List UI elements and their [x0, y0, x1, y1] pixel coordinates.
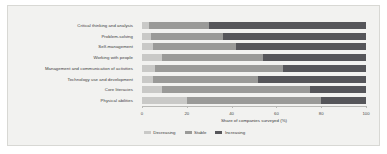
bar-segment-increasing — [258, 76, 366, 83]
bar-segment-decreasing — [142, 54, 162, 61]
category-axis-labels: Critical thinking and analysisProblem-so… — [8, 20, 138, 106]
x-axis-tick-labels: 020406080100 — [8, 108, 381, 116]
bar-segment-stable — [151, 33, 223, 40]
bar-row — [142, 97, 366, 104]
bar-row — [142, 33, 366, 40]
legend-item-decreasing[interactable]: Decreasing — [144, 130, 176, 135]
bar-segment-stable — [162, 86, 310, 93]
x-axis-tick-label: 100 — [362, 111, 369, 116]
bar-segment-decreasing — [142, 86, 162, 93]
bar-segment-increasing — [236, 43, 366, 50]
category-label: Management and communication of activiti… — [45, 65, 133, 72]
bar-segment-decreasing — [142, 33, 151, 40]
category-label: Critical thinking and analysis — [77, 22, 133, 29]
category-label: Core literacies — [105, 86, 133, 93]
bar-segment-increasing — [209, 22, 366, 29]
legend-label: Decreasing — [153, 130, 175, 135]
bar-row — [142, 86, 366, 93]
x-axis-line — [142, 106, 366, 107]
legend-label: Increasing — [225, 130, 245, 135]
x-axis-tick-label: 60 — [274, 111, 279, 116]
bar-segment-stable — [149, 22, 209, 29]
bar-row — [142, 54, 366, 61]
bar-segment-decreasing — [142, 97, 187, 104]
bar-segment-stable — [155, 65, 283, 72]
bar-row — [142, 43, 366, 50]
legend-swatch-icon — [144, 131, 151, 134]
bar-segment-increasing — [283, 65, 366, 72]
legend-swatch-icon — [215, 131, 222, 134]
bar-segment-increasing — [263, 54, 366, 61]
bar-segment-increasing — [321, 97, 366, 104]
bar-segment-increasing — [223, 33, 366, 40]
plot-area — [142, 20, 366, 106]
chart-legend: DecreasingStableIncreasing — [8, 130, 381, 135]
legend-label: Stable — [194, 130, 206, 135]
bar-segment-decreasing — [142, 43, 153, 50]
category-label: Working with people — [93, 54, 133, 61]
category-label: Self-management — [98, 43, 133, 50]
bar-row — [142, 65, 366, 72]
category-label: Technology use and development — [67, 76, 133, 83]
x-axis-tick-label: 0 — [141, 111, 143, 116]
x-axis-tick-label: 20 — [184, 111, 189, 116]
legend-item-increasing[interactable]: Increasing — [215, 130, 245, 135]
bar-row — [142, 76, 366, 83]
x-axis-tick-label: 40 — [229, 111, 234, 116]
legend-swatch-icon — [185, 131, 192, 134]
bar-segment-decreasing — [142, 76, 153, 83]
x-axis-tick-label: 80 — [319, 111, 324, 116]
bar-segment-decreasing — [142, 22, 149, 29]
category-label: Physical abilities — [101, 97, 133, 104]
legend-item-stable[interactable]: Stable — [185, 130, 207, 135]
x-axis-title: Share of companies surveyed (%) — [142, 118, 366, 123]
bar-row — [142, 22, 366, 29]
category-label: Problem-solving — [101, 33, 133, 40]
bar-segment-stable — [153, 43, 236, 50]
chart-figure: Critical thinking and analysisProblem-so… — [7, 5, 380, 146]
bar-segment-stable — [187, 97, 321, 104]
bar-segment-decreasing — [142, 65, 155, 72]
bar-segment-stable — [162, 54, 263, 61]
bar-segment-stable — [153, 76, 258, 83]
bar-segment-increasing — [310, 86, 366, 93]
